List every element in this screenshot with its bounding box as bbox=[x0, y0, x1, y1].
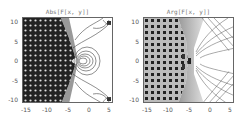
x-tick-label: -15 bbox=[140, 106, 154, 113]
y-tick-label: 0 bbox=[125, 57, 139, 64]
x-tick-label: -10 bbox=[40, 106, 54, 113]
y-tick-label: 10 bbox=[125, 18, 139, 25]
abs-plot-panel: Abs[F[x, y]] bbox=[0, 0, 121, 120]
x-tick-label: -10 bbox=[161, 106, 175, 113]
x-tick-label: 0 bbox=[82, 106, 96, 113]
x-tick-label: -5 bbox=[182, 106, 196, 113]
arg-plot-title: Arg[F[x, y]] bbox=[143, 8, 234, 15]
y-tick-label: -10 bbox=[4, 96, 18, 103]
arg-plot-panel: Arg[F[x, y]] bbox=[121, 0, 242, 120]
y-tick-label: 10 bbox=[4, 18, 18, 25]
y-tick-label: -10 bbox=[125, 96, 139, 103]
y-tick-label: -5 bbox=[125, 77, 139, 84]
arg-contour-graphic bbox=[144, 18, 234, 103]
y-tick-label: 0 bbox=[4, 57, 18, 64]
abs-plot-title: Abs[F[x, y]] bbox=[22, 8, 113, 15]
x-tick-label: 5 bbox=[223, 106, 237, 113]
x-tick-label: 5 bbox=[102, 106, 116, 113]
y-tick-label: -5 bbox=[4, 77, 18, 84]
arg-plot-area bbox=[143, 17, 234, 103]
y-tick-label: 5 bbox=[4, 38, 18, 45]
abs-plot-area bbox=[22, 17, 113, 103]
abs-contour-graphic bbox=[23, 18, 113, 103]
y-tick-label: 5 bbox=[125, 38, 139, 45]
x-tick-label: -5 bbox=[61, 106, 75, 113]
x-tick-label: 0 bbox=[203, 106, 217, 113]
x-tick-label: -15 bbox=[19, 106, 33, 113]
